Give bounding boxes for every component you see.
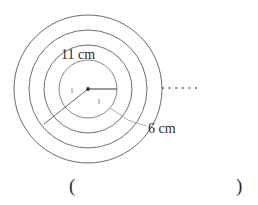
diagonal-radius-line [44,89,88,124]
figure-container: 11 cm 6 cm ( ) [0,0,258,205]
center-point-dot [86,87,90,91]
answer-close-paren: ) [236,175,242,197]
answer-blank-row: ( ) [0,175,258,205]
answer-open-paren: ( [69,175,75,197]
label-6-cm: 6 cm [148,122,176,136]
label-11-cm: 11 cm [61,48,95,62]
continuation-dots [162,87,197,89]
